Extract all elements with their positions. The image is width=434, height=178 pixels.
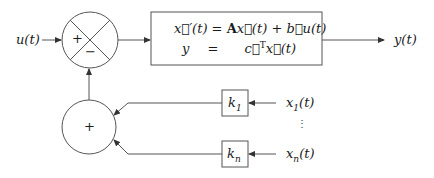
state-vector: x⃗(t) [266,41,297,56]
gain-label-k1: k1 [228,96,242,113]
output-label: y(t) [394,33,417,46]
eq-plus: + [271,21,282,36]
input-label: u(t) [16,33,40,46]
kn-to-sum-arrow [114,140,222,154]
plus-sign: + [84,120,95,133]
gain-subscript: n [235,154,241,164]
minus-sign: − [85,45,96,58]
block-diagram: u(t) + − + x⃗′(t) = Ax⃗(t) + b⃗u(t) y = … [0,0,434,178]
eq-op: = [212,21,223,36]
input-term: b⃗u(t) [286,21,326,36]
output-vector: c⃗ [245,41,260,56]
plus-sign: + [72,32,83,45]
state-input-xn: xn(t) [286,147,315,164]
k1-to-sum-arrow [114,103,222,115]
eq-op: = [208,41,219,56]
state-arg: (t) [299,95,314,110]
eq-lhs: x⃗′(t) [174,21,207,36]
eq-lhs: y [182,41,189,56]
gain-symbol: k [228,95,236,110]
state-space-block [151,12,322,65]
gain-label-kn: kn [227,147,241,164]
summing-junction-top [62,12,118,68]
gain-subscript: 1 [236,103,242,113]
state-arg: (t) [299,146,314,161]
state-vector: x⃗(t) [237,21,268,36]
ellipsis: ⋮ [297,122,303,126]
matrix-A: A [227,21,237,36]
state-input-x1: x1(t) [286,96,314,113]
gain-symbol: k [227,146,235,161]
output-equation: y = c⃗Tx⃗(t) [182,41,296,55]
state-equation: x⃗′(t) = Ax⃗(t) + b⃗u(t) [174,22,326,35]
